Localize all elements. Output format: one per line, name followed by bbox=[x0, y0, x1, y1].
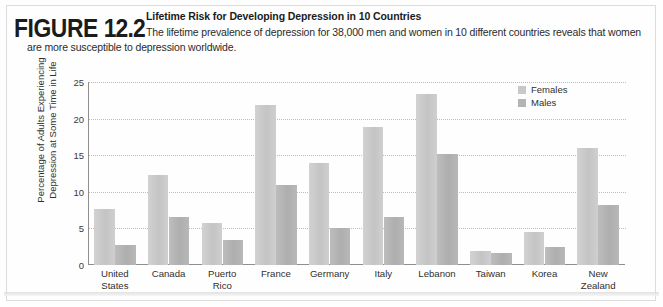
chart-legend: FemalesMales bbox=[518, 83, 567, 109]
bar-group bbox=[202, 82, 244, 265]
bar bbox=[169, 217, 190, 265]
bar bbox=[524, 232, 545, 265]
bar bbox=[545, 247, 566, 265]
x-axis-label: Germany bbox=[303, 268, 357, 280]
bar bbox=[115, 245, 136, 265]
bar-chart: Percentage of Adults Experiencing Depres… bbox=[0, 62, 663, 307]
bar-group bbox=[577, 82, 619, 265]
bar bbox=[437, 154, 458, 265]
bar bbox=[309, 163, 330, 265]
y-axis-tick-label: 25 bbox=[62, 77, 84, 88]
y-axis-tick-label: 10 bbox=[62, 186, 84, 197]
legend-item: Females bbox=[518, 83, 567, 96]
bar-group bbox=[524, 82, 566, 265]
legend-swatch-icon bbox=[518, 86, 526, 94]
bar bbox=[148, 175, 169, 265]
bar-group bbox=[94, 82, 136, 265]
y-axis-title: Percentage of Adults Experiencing Depres… bbox=[35, 43, 59, 218]
x-axis-label: UnitedStates bbox=[88, 268, 142, 292]
y-axis-ticks: 0510152025 bbox=[58, 82, 84, 265]
x-axis-label: PuertoRico bbox=[195, 268, 249, 292]
bar bbox=[276, 185, 297, 265]
y-axis-tick-label: 20 bbox=[62, 113, 84, 124]
legend-label: Females bbox=[531, 84, 567, 95]
y-axis-tick-label: 5 bbox=[62, 223, 84, 234]
y-axis-tick-label: 0 bbox=[62, 260, 84, 271]
legend-swatch-icon bbox=[518, 99, 526, 107]
figure-caption-line-2: are more susceptible to depression world… bbox=[27, 40, 547, 55]
x-axis-labels: UnitedStatesCanadaPuertoRicoFranceGerman… bbox=[88, 268, 625, 302]
x-axis-label: Taiwan bbox=[464, 268, 518, 280]
bar-group bbox=[255, 82, 297, 265]
bar-group bbox=[148, 82, 190, 265]
legend-label: Males bbox=[531, 97, 556, 108]
x-axis-label: Italy bbox=[357, 268, 411, 280]
x-axis-label: NewZealand bbox=[571, 268, 625, 292]
bar bbox=[470, 251, 491, 265]
x-axis-label: Lebanon bbox=[410, 268, 464, 280]
bar-group bbox=[309, 82, 351, 265]
bars-layer bbox=[88, 82, 625, 265]
bar-group bbox=[416, 82, 458, 265]
figure-container: FIGURE 12.2 Lifetime Risk for Developing… bbox=[0, 0, 663, 307]
bar-group bbox=[363, 82, 405, 265]
figure-label-number: 12.2 bbox=[104, 13, 145, 43]
legend-item: Males bbox=[518, 96, 567, 109]
bar bbox=[202, 223, 223, 265]
figure-caption-line-1: The lifetime prevalence of depression fo… bbox=[146, 26, 641, 38]
bar bbox=[94, 209, 115, 265]
figure-label-word: FIGURE bbox=[14, 13, 98, 43]
bar bbox=[223, 240, 244, 265]
bar bbox=[255, 105, 276, 265]
figure-title: Lifetime Risk for Developing Depression … bbox=[146, 10, 421, 22]
bar bbox=[577, 148, 598, 265]
bar bbox=[598, 205, 619, 265]
y-axis-tick-label: 15 bbox=[62, 150, 84, 161]
x-axis-label: Korea bbox=[518, 268, 572, 280]
bar bbox=[330, 228, 351, 265]
x-axis-label: Canada bbox=[142, 268, 196, 280]
bar bbox=[363, 127, 384, 265]
bar bbox=[384, 217, 405, 265]
figure-caption: The lifetime prevalence of depression fo… bbox=[146, 25, 658, 40]
bar bbox=[416, 94, 437, 265]
bar-group bbox=[470, 82, 512, 265]
bar bbox=[491, 253, 512, 265]
x-axis-label: France bbox=[249, 268, 303, 280]
